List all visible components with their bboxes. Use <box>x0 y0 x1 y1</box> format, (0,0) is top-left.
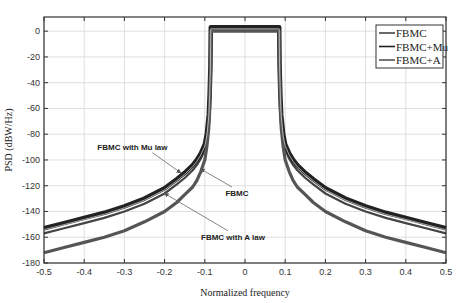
annotation-arrow <box>201 169 232 187</box>
legend-label: FBMC <box>396 27 427 39</box>
annotation-arrow <box>165 193 228 230</box>
y-tick-label: -140 <box>22 206 40 216</box>
x-tick-label: 0.2 <box>319 267 332 277</box>
annotation-arrow <box>152 153 180 173</box>
y-tick-label: -40 <box>27 78 40 88</box>
x-tick-label: 0 <box>242 267 247 277</box>
x-tick-label: -0.1 <box>197 267 213 277</box>
x-tick-label: -0.5 <box>36 267 52 277</box>
x-tick-label: 0.5 <box>440 267 453 277</box>
x-axis-label: Normalized frequency <box>200 287 290 298</box>
y-tick-label: -80 <box>27 129 40 139</box>
y-tick-label: -100 <box>22 155 40 165</box>
x-tick-label: -0.2 <box>157 267 173 277</box>
y-tick-label: -60 <box>27 103 40 113</box>
y-tick-label: -20 <box>27 52 40 62</box>
x-tick-label: -0.4 <box>76 267 92 277</box>
legend-label: FBMC+Mu <box>396 41 449 53</box>
psd-chart: -0.5-0.4-0.3-0.2-0.100.10.20.30.40.5 0-2… <box>0 0 465 303</box>
x-tick-label: 0.4 <box>400 267 413 277</box>
y-axis-label: PSD (dBW/Hz) <box>3 108 15 171</box>
x-tick-label: 0.1 <box>279 267 292 277</box>
legend: FBMCFBMC+MuFBMC+A <box>376 25 449 68</box>
annotation-label: FBMC with Mu law <box>97 143 168 152</box>
legend-label: FBMC+A <box>396 54 441 66</box>
x-tick-label: -0.3 <box>117 267 133 277</box>
annotation-label: FBMC <box>225 189 248 198</box>
y-tick-label: -180 <box>22 258 40 268</box>
annotation-label: FBMC with A law <box>201 233 266 242</box>
x-tick-label: 0.3 <box>359 267 372 277</box>
y-tick-label: -160 <box>22 232 40 242</box>
annotations: FBMC with Mu lawFBMCFBMC with A law <box>97 143 265 242</box>
y-tick-label: -120 <box>22 181 40 191</box>
y-tick-label: 0 <box>35 26 40 36</box>
